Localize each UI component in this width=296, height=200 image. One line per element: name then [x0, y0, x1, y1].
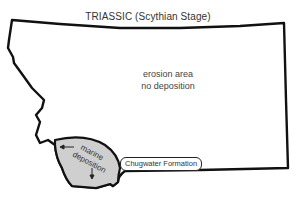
erosion-area-label: erosion area no deposition: [128, 68, 208, 92]
erosion-label-line1: erosion area: [128, 68, 208, 80]
chugwater-formation-label: Chugwater Formation: [120, 157, 202, 171]
montana-map: marine deposition TRIASSIC (Scythian Sta…: [0, 0, 296, 200]
erosion-label-line2: no deposition: [128, 80, 208, 92]
map-title: TRIASSIC (Scythian Stage): [0, 11, 296, 22]
